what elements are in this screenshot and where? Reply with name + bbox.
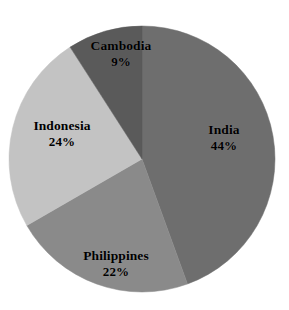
pie-label-philippines: Philippines 22% <box>56 248 176 279</box>
pie-label-india-name: India <box>178 122 270 138</box>
pie-label-india: India 44% <box>178 122 270 153</box>
pie-label-philippines-name: Philippines <box>56 248 176 264</box>
pie-label-india-value: 44% <box>178 138 270 153</box>
pie-label-indonesia: Indonesia 24% <box>6 118 118 149</box>
pie-label-indonesia-name: Indonesia <box>6 118 118 134</box>
pie-label-cambodia: Cambodia 9% <box>62 38 180 69</box>
pie-label-indonesia-value: 24% <box>6 134 118 149</box>
pie-label-cambodia-name: Cambodia <box>62 38 180 54</box>
pie-chart: India 44% Philippines 22% Indonesia 24% … <box>0 0 289 310</box>
pie-label-cambodia-value: 9% <box>62 54 180 69</box>
pie-label-philippines-value: 22% <box>56 264 176 279</box>
